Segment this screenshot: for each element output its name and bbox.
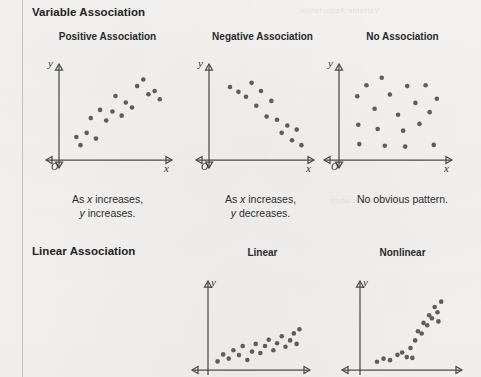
axes (324, 64, 452, 168)
data-point (439, 299, 444, 304)
data-point (226, 356, 231, 361)
data-point (110, 109, 115, 114)
chart-linear-association-svg: y (190, 275, 340, 377)
data-point (431, 143, 436, 148)
chart-positive-association: y x O (34, 56, 184, 171)
data-point (403, 144, 408, 149)
caption-none-line1: No obvious pattern. (330, 192, 475, 206)
origin-label: O (201, 161, 208, 172)
data-point (436, 319, 441, 324)
data-point (84, 131, 89, 136)
chart-nonlinear-association: y (340, 275, 481, 377)
data-point (425, 323, 430, 328)
data-point (215, 359, 220, 364)
data-point (279, 334, 284, 339)
data-point (275, 341, 280, 346)
data-point (294, 127, 299, 132)
column-heading-negative-association: Negative Association (185, 31, 340, 42)
data-point (288, 338, 293, 343)
data-point (417, 122, 422, 127)
data-point (231, 348, 236, 353)
data-point (258, 351, 263, 356)
chart-nonlinear-association-svg: y (340, 275, 481, 377)
data-point (146, 92, 151, 97)
scatter-series-none (355, 75, 439, 148)
data-point (245, 358, 250, 363)
data-point (285, 123, 290, 128)
data-point (74, 135, 79, 140)
data-point (244, 94, 249, 99)
data-point (130, 105, 135, 110)
data-point (404, 355, 409, 360)
scatter-series-negative (228, 81, 304, 148)
data-point (355, 94, 360, 99)
data-point (401, 128, 406, 133)
data-point (356, 122, 361, 127)
data-point (98, 108, 103, 113)
data-point (152, 89, 157, 94)
chart-no-association-svg: y x O (318, 56, 473, 171)
data-point (432, 305, 437, 310)
axes (192, 281, 310, 375)
data-point (408, 346, 413, 351)
data-point (388, 358, 393, 363)
data-point (379, 75, 384, 80)
x-axis-label: x (163, 162, 169, 174)
data-point (357, 142, 362, 147)
column-heading-nonlinear: Nonlinear (330, 247, 475, 258)
data-point (135, 84, 140, 89)
data-point (435, 96, 440, 101)
data-point (290, 138, 295, 143)
origin-label: O (51, 161, 58, 172)
data-point (279, 131, 284, 136)
data-point (237, 353, 242, 358)
data-point (299, 143, 304, 148)
data-point (381, 356, 386, 361)
x-axis-label: x (305, 162, 311, 174)
chart-linear-association: y (190, 275, 340, 377)
data-point (435, 310, 440, 315)
column-heading-positive-association: Positive Association (30, 31, 185, 42)
data-point (264, 114, 269, 119)
caption-negative-line2: y decreases. (183, 206, 338, 220)
chart-negative-association: y x O (188, 56, 338, 171)
axes (196, 64, 314, 168)
data-point (413, 101, 418, 106)
chart-positive-association-svg: y x O (34, 56, 184, 171)
data-point (113, 94, 118, 99)
column-heading-no-association: No Association (330, 31, 475, 42)
data-point (375, 359, 380, 364)
y-axis-label: y (47, 57, 53, 69)
axes (342, 281, 462, 375)
y-axis-label: y (197, 57, 203, 69)
data-point (253, 342, 258, 347)
y-axis-label: y (210, 276, 216, 288)
data-point (88, 116, 93, 121)
scatter-series-nonlinear (375, 299, 444, 364)
data-point (124, 100, 129, 105)
data-point (375, 127, 380, 132)
data-point (269, 99, 274, 104)
chart-negative-association-svg: y x O (188, 56, 338, 171)
caption-negative-line1: As x increases, (183, 192, 338, 206)
data-point (430, 316, 435, 321)
data-point (400, 350, 405, 355)
data-point (410, 356, 415, 361)
data-point (419, 331, 424, 336)
data-point (250, 349, 255, 354)
data-point (395, 353, 400, 358)
section-heading-variable-association: Variable Association (32, 6, 145, 18)
y-axis-label: y (327, 57, 333, 69)
data-point (266, 337, 271, 342)
data-point (157, 97, 162, 102)
data-point (78, 143, 83, 148)
data-point (249, 81, 254, 86)
y-axis-label: y (362, 276, 368, 288)
caption-no-association: No obvious pattern. (330, 192, 475, 206)
data-point (423, 83, 428, 88)
data-point (228, 85, 233, 90)
column-heading-linear: Linear (185, 247, 340, 258)
data-point (372, 107, 377, 112)
scatter-series-positive (74, 77, 162, 147)
data-point (141, 77, 146, 82)
